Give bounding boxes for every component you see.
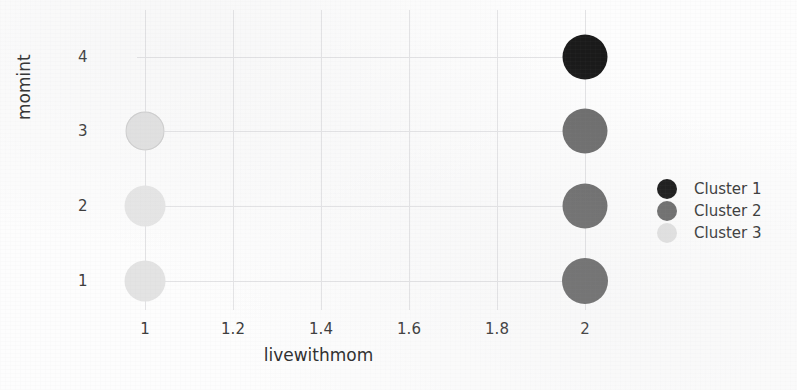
x-tick-label-1: 1 (140, 320, 150, 338)
x-tick-label-1.8: 1.8 (485, 320, 509, 338)
legend-item-cluster-1[interactable]: Cluster 1 (657, 178, 762, 200)
x-axis-title: livewithmom (264, 345, 374, 365)
gridline-y-4 (137, 57, 585, 58)
gridline-x-1.8 (497, 10, 498, 310)
y-tick-label-2: 2 (78, 197, 88, 215)
legend-item-cluster-3[interactable]: Cluster 3 (657, 222, 762, 244)
x-tick-label-1.6: 1.6 (397, 320, 421, 338)
legend-label-cluster-3: Cluster 3 (694, 224, 762, 242)
x-tick-label-2: 2 (580, 320, 590, 338)
y-tick-label-1: 1 (78, 272, 88, 290)
data-point-cluster3-x1-y2[interactable] (125, 186, 166, 227)
legend-swatch-icon-cluster-1 (657, 179, 677, 199)
x-tick-label-1.2: 1.2 (221, 320, 245, 338)
data-point-cluster2-x2-y3[interactable] (563, 109, 608, 154)
gridline-x-1.2 (233, 10, 234, 310)
legend-swatch-icon-cluster-2 (657, 201, 677, 221)
data-point-cluster2-x2-y2[interactable] (563, 184, 608, 229)
y-tick-label-3: 3 (78, 122, 88, 140)
legend-label-cluster-2: Cluster 2 (694, 202, 762, 220)
plot-area (145, 10, 585, 310)
data-point-cluster2-x2-y1[interactable] (562, 258, 608, 304)
data-point-cluster3-x1-y1[interactable] (125, 261, 166, 302)
legend-label-cluster-1: Cluster 1 (694, 180, 762, 198)
legend-item-cluster-2[interactable]: Cluster 2 (657, 200, 762, 222)
x-tick-label-1.4: 1.4 (309, 320, 333, 338)
legend-swatch-icon-cluster-3 (657, 223, 677, 243)
x-axis-title-wrap: livewithmom (0, 345, 797, 365)
gridline-y-3 (137, 131, 585, 132)
gridline-y-1 (137, 281, 585, 282)
chart-figure: momint 4 3 2 1 1 1.2 1.4 1.6 1.8 2 l (0, 0, 797, 390)
gridline-x-1.4 (321, 10, 322, 310)
legend: Cluster 1 Cluster 2 Cluster 3 (657, 178, 762, 244)
gridline-y-2 (137, 206, 585, 207)
data-point-cluster1-x2-y4[interactable] (563, 35, 608, 80)
data-point-cluster3-x1-y3[interactable] (126, 112, 165, 151)
y-tick-label-4: 4 (78, 48, 88, 66)
gridline-x-1.6 (409, 10, 410, 310)
y-axis-title: momint (14, 54, 34, 120)
